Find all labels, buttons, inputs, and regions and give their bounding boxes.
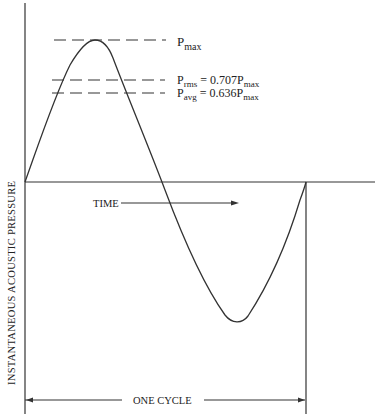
- y-axis-label: INSTANTANEOUS ACOUSTIC PRESSURE: [6, 181, 17, 385]
- cycle-label: ONE CYCLE: [133, 395, 192, 406]
- pmax-label: Pmax: [177, 34, 201, 52]
- cycle-arrow-left-head-icon: [26, 398, 33, 403]
- pressure-waveform: [25, 40, 306, 322]
- time-arrow-head-icon: [231, 201, 239, 206]
- diagram-canvas: Pmax Prms = 0.707Pmax Pavg = 0.636Pmax I…: [0, 0, 380, 417]
- cycle-arrow-right-head-icon: [298, 398, 305, 403]
- time-label: TIME: [93, 198, 119, 209]
- sound-wave-diagram: Pmax Prms = 0.707Pmax Pavg = 0.636Pmax I…: [0, 0, 380, 417]
